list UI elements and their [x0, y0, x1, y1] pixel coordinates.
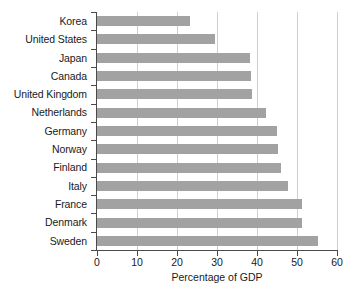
bar [97, 89, 252, 99]
bar [97, 199, 302, 209]
bar [97, 34, 215, 44]
bar-row [97, 122, 337, 140]
bar [97, 236, 318, 246]
bar [97, 53, 250, 63]
bar-row [97, 104, 337, 122]
y-axis-category-label: Netherlands [0, 104, 91, 122]
bar [97, 16, 190, 26]
y-axis-category-label: United States [0, 30, 91, 48]
bar [97, 126, 277, 136]
x-axis-tick-label: 60 [331, 256, 343, 269]
bar-row [97, 12, 337, 30]
y-axis-category-label: United Kingdom [0, 85, 91, 103]
x-axis-tick-label: 0 [94, 256, 100, 269]
y-axis-category-label: Finland [0, 159, 91, 177]
bar-row [97, 85, 337, 103]
bar-row [97, 67, 337, 85]
bar-row [97, 232, 337, 250]
bar-series [97, 12, 337, 250]
bar [97, 144, 278, 154]
y-axis-category-label: Korea [0, 12, 91, 30]
y-axis-category-label: Norway [0, 140, 91, 158]
y-axis-category-label: Denmark [0, 213, 91, 231]
x-axis-title: Percentage of GDP [97, 271, 337, 284]
y-axis-category-label: Sweden [0, 232, 91, 250]
bar-row [97, 140, 337, 158]
x-axis-tick-labels: 0102030405060 [97, 256, 337, 270]
bar-row [97, 159, 337, 177]
y-axis-category-label: Canada [0, 67, 91, 85]
bar-row [97, 49, 337, 67]
x-axis-tick-label: 40 [251, 256, 263, 269]
plot-area [97, 12, 337, 250]
bar [97, 181, 288, 191]
x-axis-tick-label: 20 [171, 256, 183, 269]
bar-row [97, 177, 337, 195]
bar-row [97, 30, 337, 48]
y-axis-category-label: France [0, 195, 91, 213]
y-axis-category-label: Germany [0, 122, 91, 140]
x-axis-tick-label: 10 [131, 256, 143, 269]
gridline [337, 12, 338, 250]
x-axis-tick-label: 50 [291, 256, 303, 269]
bar [97, 163, 281, 173]
y-axis-category-labels: KoreaUnited StatesJapanCanadaUnited King… [0, 12, 91, 250]
y-axis-category-label: Italy [0, 177, 91, 195]
x-axis-tick-label: 30 [211, 256, 223, 269]
bar [97, 71, 251, 81]
y-axis-category-label: Japan [0, 49, 91, 67]
bar-chart: KoreaUnited StatesJapanCanadaUnited King… [0, 0, 351, 291]
bar [97, 218, 302, 228]
bar-row [97, 195, 337, 213]
bar [97, 108, 266, 118]
bar-row [97, 213, 337, 231]
